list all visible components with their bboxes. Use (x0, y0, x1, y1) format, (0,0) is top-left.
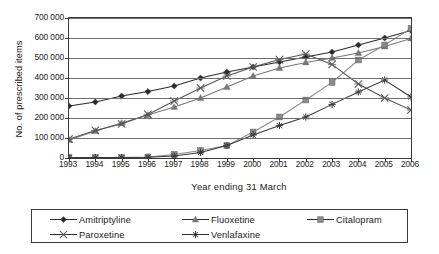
gridline (69, 58, 411, 59)
legend-item-amitriptyline[interactable]: Amitriptyline (50, 212, 131, 227)
legend-item-fluoxetine[interactable]: Fluoxetine (182, 212, 255, 227)
legend-item-venlafaxine[interactable]: Venlafaxine (182, 227, 260, 242)
data-point-square (318, 216, 324, 222)
data-point-diamond (145, 89, 151, 95)
legend-symbol-triangle-icon (182, 214, 209, 226)
data-point-x (196, 84, 204, 91)
data-point-square (382, 42, 388, 48)
legend-row: ParoxetineVenlafaxine (32, 227, 409, 242)
series-amitriptyline (69, 27, 411, 109)
x-tick-label: 2006 (390, 160, 430, 169)
y-axis-tick (65, 138, 69, 139)
legend-marker (50, 214, 77, 226)
plot-area (68, 17, 412, 159)
legend-marker (50, 229, 77, 241)
y-axis-tick (65, 38, 69, 39)
data-point-star (328, 101, 335, 108)
y-tick-label: 600 000 (18, 33, 64, 41)
y-axis-tick (65, 118, 69, 119)
y-axis-tick (65, 78, 69, 79)
y-tick-label: 700 000 (18, 13, 64, 21)
y-tick-label: 500 000 (18, 53, 64, 61)
y-tick-label: 400 000 (18, 73, 64, 81)
y-tick-label: 100 000 (18, 133, 64, 141)
x-axis-tick-labels: 1993199419951996199719981999200020012002… (68, 160, 410, 174)
y-axis-tick (65, 58, 69, 59)
legend-item-citalopram[interactable]: Citalopram (307, 212, 382, 227)
data-point-diamond (92, 99, 98, 105)
data-point-x (59, 231, 67, 238)
data-point-diamond (171, 83, 177, 89)
data-point-star (223, 142, 230, 149)
x-axis-title: Year ending 31 March (68, 181, 410, 192)
legend-label: Citalopram (334, 215, 382, 225)
data-point-x (354, 80, 362, 87)
gridline (69, 138, 411, 139)
legend-symbol-x-icon (50, 229, 77, 241)
legend-label: Paroxetine (77, 230, 124, 240)
series-fluoxetine (69, 35, 411, 143)
gridline (69, 118, 411, 119)
legend-marker (182, 214, 209, 226)
gridline (69, 78, 411, 79)
legend-label: Amitriptyline (77, 215, 131, 225)
legend-marker (307, 214, 334, 226)
data-point-diamond (355, 42, 361, 48)
data-point-square (277, 114, 283, 120)
data-point-diamond (61, 216, 67, 222)
data-point-star (276, 122, 283, 129)
series-layer (69, 18, 411, 158)
data-point-x (328, 61, 336, 68)
data-point-square (329, 80, 335, 86)
data-point-triangle (192, 216, 199, 222)
legend-item-paroxetine[interactable]: Paroxetine (50, 227, 124, 242)
legend-label: Venlafaxine (209, 230, 260, 240)
y-axis-tick (65, 98, 69, 99)
data-point-star (197, 149, 204, 156)
legend-row: AmitriptylineFluoxetineCitalopram (32, 212, 409, 227)
data-point-star (355, 88, 362, 95)
data-point-star (302, 113, 309, 120)
y-axis-tick (65, 18, 69, 19)
data-point-diamond (69, 103, 72, 109)
chart-legend: AmitriptylineFluoxetineCitalopramParoxet… (31, 209, 408, 243)
data-point-square (408, 26, 411, 32)
data-point-star (192, 231, 199, 238)
y-tick-label: 300 000 (18, 93, 64, 101)
gridline (69, 98, 411, 99)
legend-marker (182, 229, 209, 241)
gridline (69, 18, 411, 19)
legend-label: Fluoxetine (209, 215, 255, 225)
gridline (69, 38, 411, 39)
data-point-diamond (329, 49, 335, 55)
y-tick-label: 200 000 (18, 113, 64, 121)
legend-symbol-square-icon (307, 214, 334, 226)
data-point-x (407, 106, 411, 113)
legend-symbol-star-icon (182, 229, 209, 241)
legend-symbol-diamond-icon (50, 214, 77, 226)
